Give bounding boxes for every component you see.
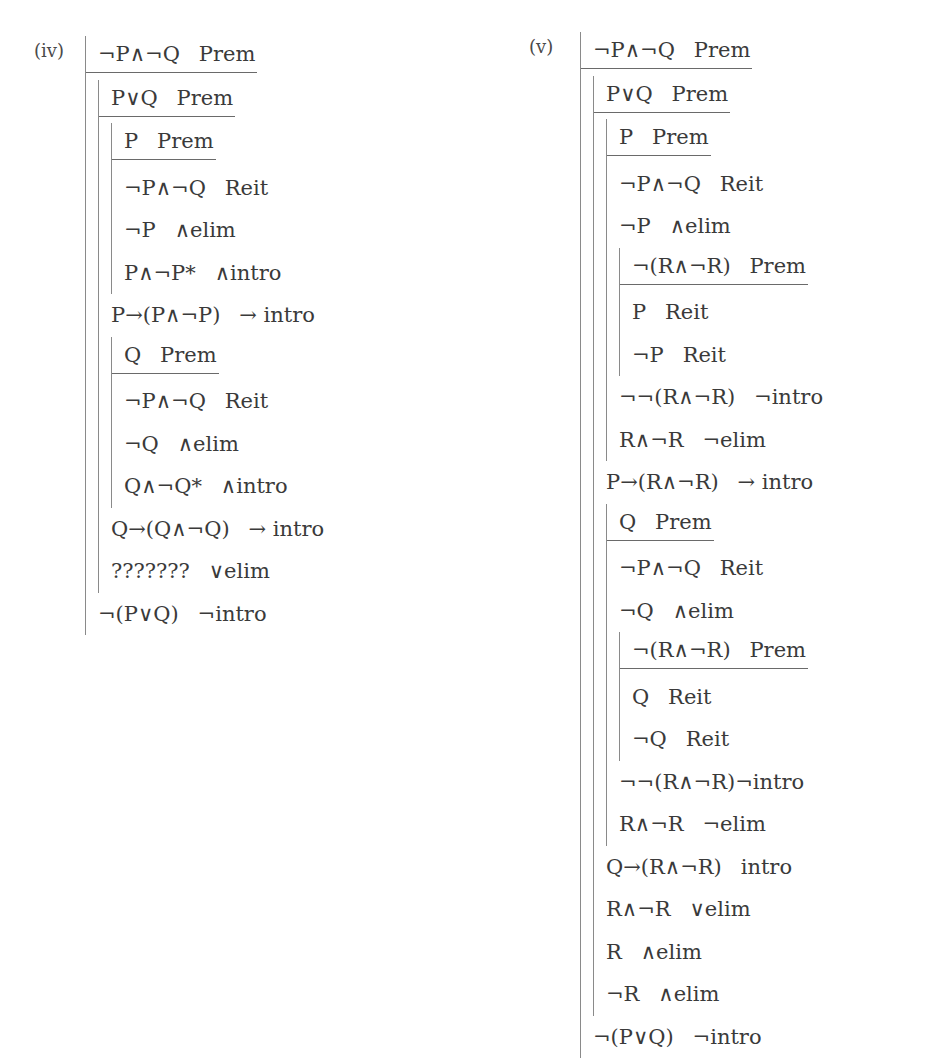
subproof: ¬P∧¬QPremP∨QPremPPrem¬P∧¬QReit¬P∧elimP∧¬… xyxy=(85,36,324,635)
formula: P→(P∧¬P) xyxy=(111,303,220,327)
formula: ¬Q xyxy=(619,599,654,623)
rule-justification: Reit xyxy=(665,300,708,324)
subproof: QPrem¬P∧¬QReit¬Q∧elim¬(R∧¬R)PremQReit¬QR… xyxy=(606,504,823,846)
subproof: P∨QPremPPrem¬P∧¬QReit¬P∧elimP∧¬P*∧introP… xyxy=(98,80,324,593)
formula: ¬P∧¬Q xyxy=(98,42,180,66)
rule-justification: → intro xyxy=(249,517,325,541)
proof-line: ¬QReit xyxy=(632,718,823,761)
rule-justification: Prem xyxy=(199,42,256,66)
subproof: ¬(R∧¬R)PremQReit¬QReit xyxy=(619,632,823,761)
rule-justification: Prem xyxy=(652,125,709,149)
rule-justification: ∧elim xyxy=(175,218,236,242)
rule-justification: → intro xyxy=(738,470,814,494)
subproof: ¬(R∧¬R)PremPReit¬PReit xyxy=(619,248,823,377)
formula: ¬P xyxy=(619,214,651,238)
subproof: QPrem¬P∧¬QReit¬Q∧elimQ∧¬Q*∧intro xyxy=(111,337,324,508)
rule-justification: Prem xyxy=(672,82,729,106)
proof-line: ¬¬(R∧¬R)¬intro xyxy=(619,761,823,804)
formula: P xyxy=(632,300,646,324)
formula: ¬P xyxy=(124,218,156,242)
proof-line: Q→(Q∧¬Q)→ intro xyxy=(111,508,324,551)
proof-line: QReit xyxy=(632,676,823,719)
formula: ¬¬(R∧¬R) xyxy=(619,385,735,409)
proof-line: ¬P∧elim xyxy=(124,209,324,252)
formula: ¬Q xyxy=(632,727,667,751)
rule-justification: ¬intro xyxy=(754,385,823,409)
formula: R∧¬R xyxy=(606,897,671,921)
formula: ¬¬(R∧¬R) xyxy=(619,770,735,794)
formula: ¬P∧¬Q xyxy=(619,172,701,196)
premise-line: ¬(R∧¬R)Prem xyxy=(620,632,808,669)
proof-body: ¬P∧¬QPremP∨QPremPPrem¬P∧¬QReit¬P∧elimP∧¬… xyxy=(85,36,324,635)
subproof: P∨QPremPPrem¬P∧¬QReit¬P∧elim¬(R∧¬R)PremP… xyxy=(593,76,823,1016)
formula: ¬(P∨Q) xyxy=(98,602,179,626)
rule-justification: ¬elim xyxy=(702,428,765,452)
proof-line: P→(P∧¬P)→ intro xyxy=(111,294,324,337)
formula: ¬(R∧¬R) xyxy=(632,638,731,662)
premise-line: ¬(R∧¬R)Prem xyxy=(620,248,808,285)
proof-line: ¬¬(R∧¬R)¬intro xyxy=(619,376,823,419)
rule-justification: Reit xyxy=(686,727,729,751)
formula: ¬P∧¬Q xyxy=(124,389,206,413)
formula: R∧¬R xyxy=(619,428,684,452)
subproof: PPrem¬P∧¬QReit¬P∧elimP∧¬P*∧intro xyxy=(111,123,324,294)
rule-justification: ¬elim xyxy=(702,812,765,836)
formula: P→(R∧¬R) xyxy=(606,470,719,494)
formula: ¬P∧¬Q xyxy=(124,176,206,200)
rule-justification: ∧elim xyxy=(670,214,731,238)
rule-justification: ∧intro xyxy=(221,474,288,498)
rule-justification: Reit xyxy=(720,556,763,580)
premise-line: ¬P∧¬QPrem xyxy=(86,36,257,73)
formula: ¬(P∨Q) xyxy=(593,1025,674,1049)
proof-line: P→(R∧¬R)→ intro xyxy=(606,461,823,504)
formula: ¬P xyxy=(632,343,664,367)
proof-line: R∧¬R¬elim xyxy=(619,803,823,846)
formula: Q→(R∧¬R) xyxy=(606,855,722,879)
premise-line: QPrem xyxy=(607,504,714,541)
formula: ¬P∧¬Q xyxy=(593,38,675,62)
formula: P xyxy=(619,125,633,149)
formula: ¬P∧¬Q xyxy=(619,556,701,580)
premise-line: P∨QPrem xyxy=(594,76,730,113)
formula: Q→(Q∧¬Q) xyxy=(111,517,230,541)
rule-justification: Prem xyxy=(157,129,214,153)
rule-justification: Prem xyxy=(160,343,217,367)
proof-label: (iv) xyxy=(34,40,64,61)
rule-justification: Prem xyxy=(749,254,806,278)
proof-line: R∧¬R¬elim xyxy=(619,419,823,462)
rule-justification: ∧elim xyxy=(658,982,719,1006)
proof-label: (v) xyxy=(529,36,553,57)
rule-justification: Prem xyxy=(177,86,234,110)
proof-line: ¬P∧elim xyxy=(619,205,823,248)
formula: ¬Q xyxy=(124,432,159,456)
proof-line: ???????∨elim xyxy=(111,550,324,593)
rule-justification: ∧intro xyxy=(215,261,282,285)
proof-line: ¬PReit xyxy=(632,334,823,377)
proof-line: ¬(P∨Q)¬intro xyxy=(593,1016,823,1058)
rule-justification: Reit xyxy=(720,172,763,196)
formula: P xyxy=(124,129,138,153)
proof-line: ¬Q∧elim xyxy=(124,423,324,466)
rule-justification: Reit xyxy=(683,343,726,367)
formula: R xyxy=(606,940,622,964)
proof-line: P∧¬P*∧intro xyxy=(124,252,324,295)
proof-line: ¬P∧¬QReit xyxy=(619,163,823,206)
formula: Q∧¬Q* xyxy=(124,474,202,498)
formula: Q xyxy=(632,685,649,709)
rule-justification: intro xyxy=(741,855,792,879)
proof-line: PReit xyxy=(632,291,823,334)
formula: ¬R xyxy=(606,982,639,1006)
proof-body: ¬P∧¬QPremP∨QPremPPrem¬P∧¬QReit¬P∧elim¬(R… xyxy=(580,32,823,1058)
rule-justification: ∨elim xyxy=(689,897,750,921)
formula: P∧¬P* xyxy=(124,261,196,285)
proof-line: R∧elim xyxy=(606,931,823,974)
proof-line: ¬P∧¬QReit xyxy=(619,547,823,590)
proof-line: Q∧¬Q*∧intro xyxy=(124,465,324,508)
formula: Q xyxy=(619,510,636,534)
formula: R∧¬R xyxy=(619,812,684,836)
proof-line: ¬R∧elim xyxy=(606,973,823,1016)
formula: Q xyxy=(124,343,141,367)
rule-justification: → intro xyxy=(239,303,315,327)
rule-justification: ∧elim xyxy=(641,940,702,964)
proof-line: ¬P∧¬QReit xyxy=(124,380,324,423)
